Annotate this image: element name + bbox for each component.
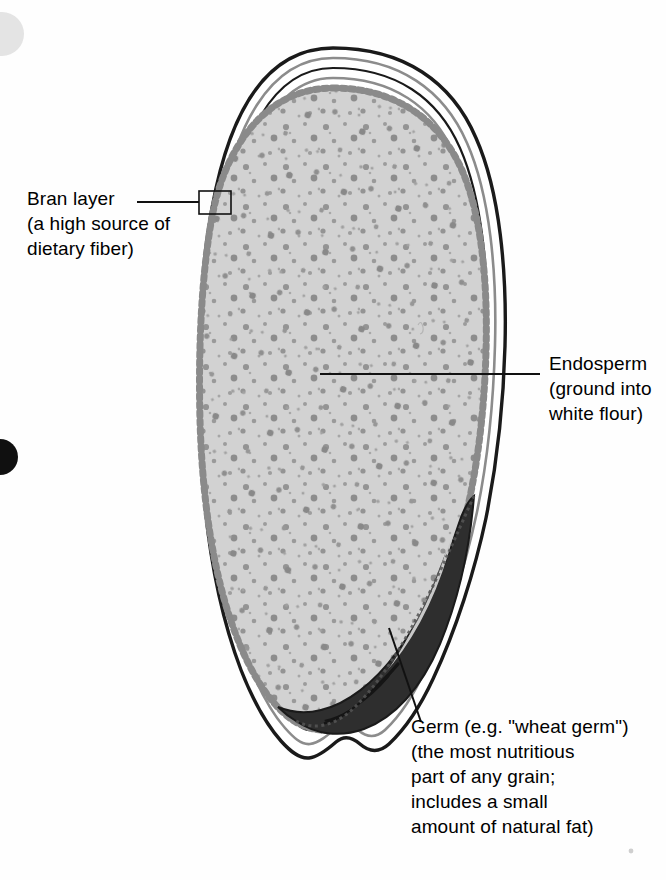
bran-label-line-3: dietary fiber) — [27, 236, 170, 261]
germ-label-line-5: amount of natural fat) — [411, 814, 629, 839]
bran-layer-label: Bran layer (a high source of dietary fib… — [27, 186, 170, 261]
endosperm-group — [190, 80, 500, 740]
bran-label-line-1: Bran layer — [27, 186, 170, 211]
germ-label-line-1: Germ (e.g. "wheat germ") — [411, 714, 629, 739]
scan-smudge-dark-icon — [0, 439, 18, 475]
germ-label-line-3: part of any grain; — [411, 764, 629, 789]
wheat-kernel-diagram: Bran layer (a high source of dietary fib… — [0, 0, 666, 880]
scan-smudge-light-icon — [0, 12, 24, 56]
bran-label-line-2: (a high source of — [27, 211, 170, 236]
endosperm-label: Endosperm (ground into white flour) — [549, 351, 652, 426]
germ-label: Germ (e.g. "wheat germ") (the most nutri… — [411, 714, 629, 839]
germ-label-line-2: (the most nutritious — [411, 739, 629, 764]
endosperm-label-line-2: (ground into — [549, 376, 652, 401]
endosperm-label-line-3: white flour) — [549, 401, 652, 426]
germ-label-line-4: includes a small — [411, 789, 629, 814]
endosperm-label-line-1: Endosperm — [549, 351, 652, 376]
scan-speck-icon — [629, 849, 634, 854]
